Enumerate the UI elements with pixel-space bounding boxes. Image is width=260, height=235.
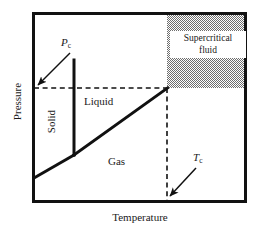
region-label-liquid: Liquid (84, 96, 113, 107)
critical-temperature-subscript: c (199, 156, 202, 165)
phase-diagram-figure: Pressure Temperature Solid Liquid Gas Su… (0, 0, 260, 235)
supercritical-label-line-2: fluid (199, 45, 217, 56)
region-label-supercritical-fluid: Supercritical fluid (170, 31, 246, 58)
region-label-solid: Solid (46, 104, 57, 140)
y-axis-label: Pressure (12, 72, 23, 132)
x-axis-label: Temperature (80, 212, 200, 223)
critical-pressure-label: Pc (61, 37, 71, 48)
supercritical-label-line-1: Supercritical (184, 33, 233, 44)
critical-temperature-label: Tc (193, 152, 202, 163)
critical-pressure-subscript: c (68, 41, 71, 50)
critical-pressure-symbol: P (61, 36, 68, 48)
region-label-gas: Gas (108, 156, 125, 167)
